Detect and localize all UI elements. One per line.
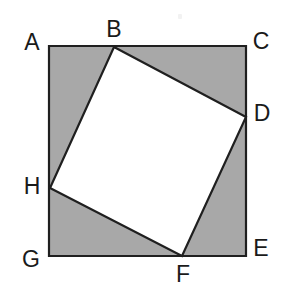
vertex-label-H: H [24, 175, 41, 198]
scan-artifact-speck [178, 14, 182, 19]
diagram-canvas [0, 0, 292, 302]
vertex-label-C: C [253, 30, 270, 53]
vertex-label-E: E [253, 237, 268, 260]
vertex-label-G: G [22, 248, 40, 271]
vertex-label-A: A [24, 31, 39, 54]
vertex-label-F: F [176, 263, 190, 286]
vertex-label-B: B [106, 18, 121, 41]
geometry-figure: A B C D E F G H [0, 0, 292, 302]
vertex-label-D: D [254, 102, 271, 125]
